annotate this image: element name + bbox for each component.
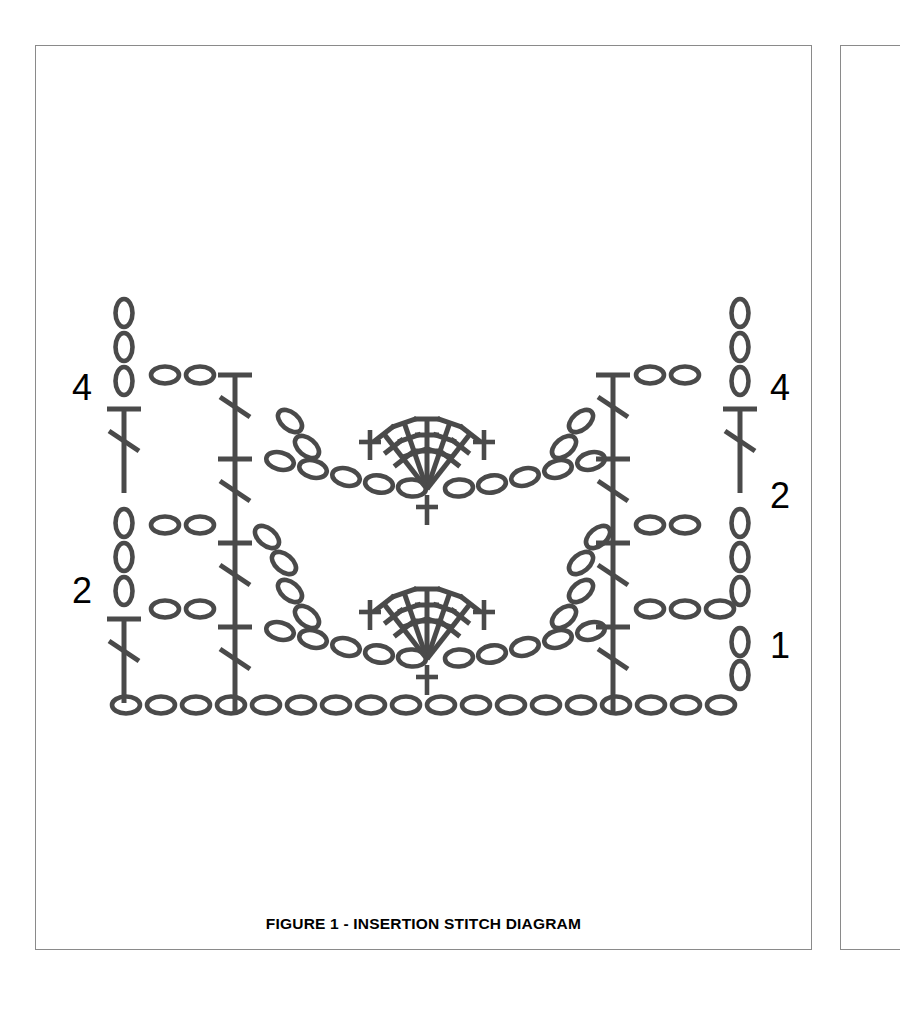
stitch-diagram: 4 2 4 2 1	[35, 45, 812, 950]
figure-caption: FIGURE 1 - INSERTION STITCH DIAGRAM	[35, 915, 812, 933]
row-4-top-chain-links-left	[151, 367, 214, 384]
row-2-anchor-single-crochet	[416, 665, 438, 695]
row-4-top-chain-links-right	[636, 367, 699, 384]
row-label-right-2: 2	[770, 475, 790, 516]
row-4-chain-arcs-right	[444, 449, 606, 497]
post-column-left-inner	[218, 375, 252, 711]
row-label-right-1: 1	[770, 625, 790, 666]
fan-lower	[374, 589, 481, 667]
row-3-chevron-left	[251, 521, 300, 578]
fan-upper	[374, 419, 481, 497]
row-label-right-4: 4	[770, 367, 790, 408]
row-3-chain-links-right	[636, 601, 734, 618]
adjacent-page-frame	[840, 45, 900, 950]
edge-column-left	[107, 299, 141, 703]
row-4-anchor-single-crochet	[416, 495, 438, 525]
row-2-chain-arcs-right	[444, 619, 606, 667]
row-label-left-2: 2	[72, 570, 92, 611]
row-1-turning-chain-right	[732, 628, 749, 689]
row-3-chain-links-mid-right	[636, 517, 699, 534]
edge-column-right	[723, 299, 757, 605]
stitch-diagram-svg: 4 2 4 2 1	[35, 45, 812, 950]
row-3-chain-links-mid-left	[151, 517, 214, 534]
row-1-foundation-chain	[112, 697, 735, 714]
row-label-left-4: 4	[72, 367, 92, 408]
row-3-chain-links-left	[151, 601, 214, 618]
